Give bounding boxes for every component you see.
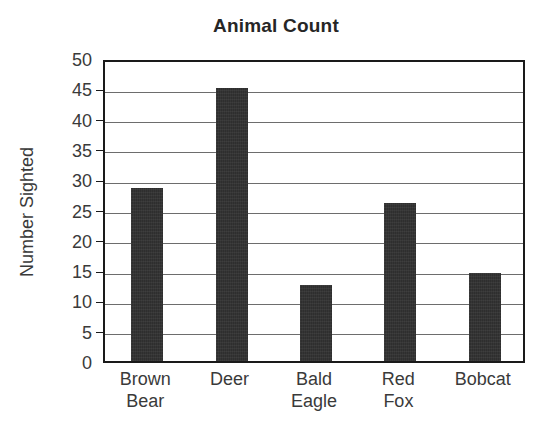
y-axis-tick-mark [96, 302, 103, 303]
gridline [105, 243, 523, 244]
y-axis-tick-mark [96, 211, 103, 212]
y-axis-tick-label: 10 [32, 292, 92, 313]
y-axis-tick-mark [96, 120, 103, 121]
gridline [105, 152, 523, 153]
y-axis-tick-label: 20 [32, 231, 92, 252]
bar [469, 273, 501, 361]
bar [384, 203, 416, 361]
y-axis-tick-label: 5 [32, 322, 92, 343]
y-axis-tick-mark [96, 90, 103, 91]
y-axis-tick-mark [96, 150, 103, 151]
bar-chart-figure: Animal Count Number Sighted 051015202530… [0, 0, 552, 437]
y-axis-tick-label: 25 [32, 201, 92, 222]
bar [300, 285, 332, 361]
x-axis-tick-label: Brown Bear [103, 368, 187, 412]
x-axis-tick-label: Red Fox [356, 368, 440, 412]
y-axis-tick-label: 30 [32, 171, 92, 192]
x-axis-tick-label: Deer [187, 368, 271, 390]
y-axis-tick-label: 40 [32, 110, 92, 131]
y-axis-tick-label: 50 [32, 50, 92, 71]
y-axis-tick-mark [96, 332, 103, 333]
bar [216, 88, 248, 361]
gridline [105, 183, 523, 184]
plot-area [103, 60, 525, 363]
gridline [105, 122, 523, 123]
gridline [105, 274, 523, 275]
y-axis-tick-mark [96, 272, 103, 273]
bar [131, 188, 163, 361]
y-axis-tick-label: 0 [32, 353, 92, 374]
y-axis-tick-label: 15 [32, 262, 92, 283]
y-axis-tick-mark [96, 181, 103, 182]
chart-title: Animal Count [0, 15, 552, 37]
y-axis-tick-label: 45 [32, 80, 92, 101]
x-axis-tick-label: Bald Eagle [272, 368, 356, 412]
y-axis-tick-mark [96, 241, 103, 242]
gridline [105, 92, 523, 93]
gridline [105, 213, 523, 214]
y-axis-tick-label: 35 [32, 140, 92, 161]
x-axis-tick-label: Bobcat [441, 368, 525, 390]
